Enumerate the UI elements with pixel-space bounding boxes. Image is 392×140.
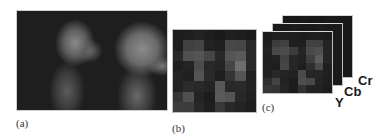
mosaic-block xyxy=(289,85,298,93)
mosaic-block xyxy=(280,32,289,40)
mosaic-block xyxy=(204,92,214,102)
mosaic-block xyxy=(280,78,289,86)
mosaic-block xyxy=(298,55,307,63)
mosaic-block xyxy=(333,32,342,40)
mosaic-block xyxy=(272,55,281,63)
mosaic-block xyxy=(289,78,298,86)
mosaic-block xyxy=(306,55,315,63)
mosaic-block xyxy=(194,61,204,71)
mosaic-block xyxy=(343,54,352,62)
mosaic-block xyxy=(183,40,193,50)
mosaic-block xyxy=(246,30,256,40)
mosaic-block xyxy=(225,30,235,40)
mosaic-block xyxy=(343,31,352,39)
mosaic-block xyxy=(183,81,193,91)
mosaic-block xyxy=(333,70,342,78)
panel-a-photo xyxy=(16,10,168,111)
mosaic-block xyxy=(315,63,324,71)
mosaic-block xyxy=(298,70,307,78)
caption-b: (b) xyxy=(172,122,185,134)
mosaic-block xyxy=(235,40,245,50)
mosaic-block xyxy=(333,24,342,32)
mosaic-block xyxy=(204,40,214,50)
channel-label-y: Y xyxy=(335,95,344,110)
mosaic-block xyxy=(323,63,332,71)
mosaic-block xyxy=(194,71,204,81)
mosaic-block xyxy=(215,81,225,91)
caption-c: (c) xyxy=(262,101,274,113)
mosaic-block xyxy=(173,92,183,102)
mosaic-block xyxy=(194,40,204,50)
mosaic-block xyxy=(343,47,352,55)
mosaic-block xyxy=(298,47,307,55)
mosaic-block xyxy=(235,51,245,61)
mosaic-block xyxy=(225,71,235,81)
mosaic-block xyxy=(263,40,272,48)
mosaic-block xyxy=(225,61,235,71)
mosaic-block xyxy=(289,55,298,63)
mosaic-block xyxy=(173,61,183,71)
mosaic-block xyxy=(306,32,315,40)
mosaic-block xyxy=(215,61,225,71)
mosaic-block xyxy=(323,78,332,86)
mosaic-block xyxy=(289,32,298,40)
mosaic-block xyxy=(306,63,315,71)
mosaic-block xyxy=(173,102,183,112)
mosaic-block xyxy=(263,47,272,55)
mosaic-block xyxy=(194,30,204,40)
mosaic-block xyxy=(183,92,193,102)
mosaic-block xyxy=(298,85,307,93)
mosaic-block xyxy=(246,51,256,61)
mosaic-block xyxy=(306,78,315,86)
mosaic-block xyxy=(204,81,214,91)
mosaic-block xyxy=(263,63,272,71)
mosaic-block xyxy=(263,78,272,86)
mosaic-block xyxy=(263,32,272,40)
mosaic-block xyxy=(183,61,193,71)
mosaic-block xyxy=(323,32,332,40)
mosaic-block xyxy=(298,63,307,71)
mosaic-block xyxy=(204,102,214,112)
mosaic-block xyxy=(280,55,289,63)
mosaic-block xyxy=(343,24,352,32)
mosaic-block xyxy=(323,47,332,55)
mosaic-block xyxy=(315,32,324,40)
mosaic-block xyxy=(225,40,235,50)
mosaic-block xyxy=(343,69,352,77)
mosaic-block xyxy=(323,70,332,78)
mosaic-block xyxy=(183,102,193,112)
mosaic-block xyxy=(204,51,214,61)
mosaic-block xyxy=(272,32,281,40)
mosaic-block xyxy=(246,81,256,91)
mosaic-block xyxy=(246,92,256,102)
mosaic-block xyxy=(289,47,298,55)
mosaic-block xyxy=(315,47,324,55)
mosaic-block xyxy=(215,40,225,50)
mosaic-block xyxy=(235,92,245,102)
panel-c-layer-y xyxy=(262,31,333,94)
mosaic-block xyxy=(225,92,235,102)
mosaic-block xyxy=(204,61,214,71)
mosaic-block xyxy=(272,85,281,93)
mosaic-block xyxy=(333,55,342,63)
mosaic-block xyxy=(246,61,256,71)
mosaic-block xyxy=(263,70,272,78)
mosaic-block xyxy=(298,78,307,86)
mosaic-block xyxy=(272,70,281,78)
mosaic-block xyxy=(306,47,315,55)
mosaic-block xyxy=(343,16,352,24)
mosaic-block xyxy=(225,102,235,112)
mosaic-block xyxy=(315,78,324,86)
mosaic-block xyxy=(183,51,193,61)
mosaic-block xyxy=(215,30,225,40)
mosaic-block xyxy=(280,70,289,78)
mosaic-block xyxy=(333,39,342,47)
mosaic-block xyxy=(306,85,315,93)
mosaic-block xyxy=(225,51,235,61)
mosaic-block xyxy=(272,78,281,86)
mosaic-block xyxy=(173,81,183,91)
mosaic-block xyxy=(272,40,281,48)
mosaic-block xyxy=(235,81,245,91)
mosaic-block xyxy=(289,70,298,78)
mosaic-block xyxy=(315,70,324,78)
